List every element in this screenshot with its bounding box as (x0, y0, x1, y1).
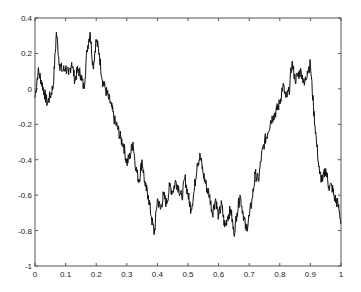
line-chart: 00.10.20.30.40.50.60.70.80.91 0.40.20-0.… (0, 0, 361, 292)
y-tick-label: -0.6 (18, 191, 32, 200)
signal-polyline (35, 32, 341, 236)
x-tick-label: 0.9 (305, 270, 317, 279)
x-tick-label: 0.4 (152, 270, 164, 279)
y-tick-label: -0.2 (18, 120, 32, 129)
y-tick-label: -0.8 (18, 227, 32, 236)
x-tick-label: 0.2 (91, 270, 103, 279)
y-tick-label: -0.4 (18, 156, 32, 165)
x-tick-label: 1 (339, 270, 344, 279)
x-tick-label: 0.1 (60, 270, 72, 279)
x-axis: 00.10.20.30.40.50.60.70.80.91 (33, 18, 344, 279)
y-axis: 0.40.20-0.2-0.4-0.6-0.8-1 (18, 14, 341, 271)
y-tick-label: 0.2 (21, 49, 33, 58)
x-tick-label: 0.6 (213, 270, 225, 279)
y-tick-label: 0 (28, 85, 33, 94)
y-tick-label: 0.4 (21, 14, 33, 23)
axes-box (35, 18, 341, 266)
x-tick-label: 0.8 (274, 270, 286, 279)
x-tick-label: 0.3 (121, 270, 133, 279)
x-tick-label: 0.7 (244, 270, 256, 279)
x-tick-label: 0 (33, 270, 38, 279)
x-tick-label: 0.5 (182, 270, 194, 279)
signal-line (35, 32, 341, 236)
y-tick-label: -1 (25, 262, 33, 271)
